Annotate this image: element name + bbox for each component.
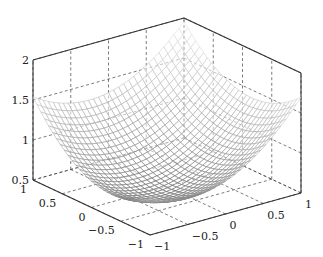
y-tick-label: 0 — [79, 211, 86, 224]
y-tick-label: 1 — [20, 183, 27, 196]
surface-plot: 0.511.52−1−0.500.51−1−0.500.51 — [0, 0, 323, 257]
x-tick-label: 0.5 — [267, 209, 285, 222]
z-tick-label: 1.5 — [12, 94, 30, 107]
x-tick-label: 0 — [230, 219, 237, 232]
y-tick-label: −0.5 — [88, 224, 115, 237]
z-tick-label: 2 — [22, 54, 29, 67]
x-tick-label: −1 — [154, 240, 170, 253]
x-tick-label: 1 — [305, 198, 312, 211]
x-tick-label: −0.5 — [192, 230, 219, 243]
y-tick-label: 0.5 — [39, 197, 57, 210]
z-tick-label: 1 — [22, 134, 29, 147]
y-tick-label: −1 — [128, 238, 144, 251]
